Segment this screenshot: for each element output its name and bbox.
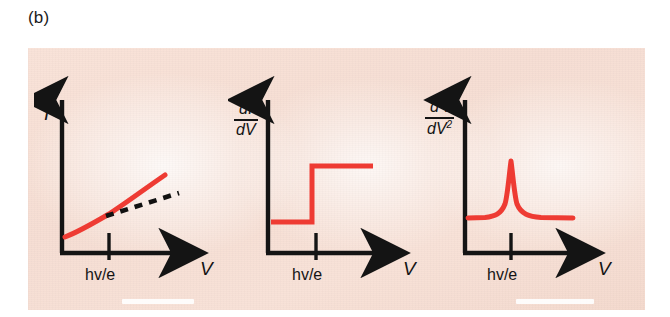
denominator-exponent: 2 <box>447 119 453 130</box>
x-tick-label-iv: hv/e <box>85 266 115 284</box>
fraction-di-dv: dI dV <box>234 101 258 139</box>
fraction-numerator-d2i: d2I <box>425 98 454 119</box>
y-axis-label-didv: dI dV <box>234 101 258 139</box>
curve-slope-extrapolation-dashed <box>106 193 179 216</box>
fraction-denominator-dv2: dV2 <box>425 119 454 138</box>
chart-didv-svg <box>228 48 428 310</box>
y-axis-label-iv: I <box>44 104 49 123</box>
x-axis-label-iv: V <box>200 258 213 280</box>
x-axis-label-didv: V <box>403 258 416 280</box>
panel-label: (b) <box>28 8 49 28</box>
denominator-dv: dV <box>427 120 447 137</box>
chart-first-derivative: dI dV V hv/e <box>228 48 428 310</box>
x-tick-label-didv: hv/e <box>292 266 322 284</box>
curve-conductance-step <box>271 166 373 222</box>
fraction-denominator-dv: dV <box>234 121 258 139</box>
chart-d2i-svg <box>423 48 623 310</box>
curve-tunneling-current <box>65 175 165 237</box>
chart-current-voltage: I V hv/e <box>34 48 234 310</box>
x-tick-label-d2i: hv/e <box>487 266 517 284</box>
numerator-i: I <box>445 98 449 115</box>
y-axis-label-d2i: d2I dV2 <box>425 98 454 138</box>
numerator-d: d <box>430 98 439 115</box>
plot-panel-background: I V hv/e <box>28 48 645 310</box>
chart-second-derivative: d2I dV2 V hv/e <box>423 48 623 310</box>
figure-panel-b: (b) <box>0 0 670 317</box>
fraction-numerator-di: dI <box>234 101 258 121</box>
x-axis-label-d2i: V <box>598 258 611 280</box>
curve-inelastic-peak <box>468 161 573 218</box>
fraction-d2i-dv2: d2I dV2 <box>425 98 454 138</box>
